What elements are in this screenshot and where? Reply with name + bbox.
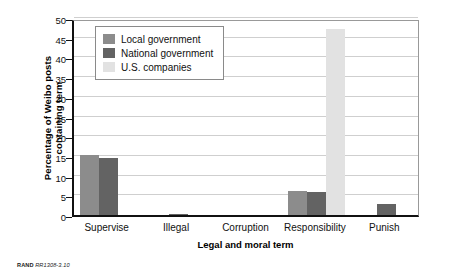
footer-document-id: RR1308-3.10 — [35, 262, 69, 268]
legend-item[interactable]: U.S. companies — [103, 60, 213, 74]
legend-swatch-icon — [103, 48, 115, 58]
y-axis-title: Percentage of Weibo posts containing ter… — [42, 18, 64, 218]
legend-item-label: U.S. companies — [121, 62, 192, 73]
x-axis-tick-label: Corruption — [222, 222, 269, 233]
bar-group — [352, 21, 421, 215]
x-axis-tick-label: Supervise — [84, 222, 128, 233]
y-axis-title-wrap: Percentage of Weibo posts containing ter… — [8, 18, 48, 218]
legend-item-label: Local government — [121, 34, 201, 45]
figure-container: Percentage of Weibo posts containing ter… — [0, 0, 461, 279]
x-axis-title: Legal and moral term — [72, 239, 419, 250]
y-axis-title-line2: containing term — [53, 18, 64, 218]
legend-swatch-icon — [103, 34, 115, 44]
x-axis-tick-label: Responsibility — [284, 222, 346, 233]
bar[interactable] — [326, 29, 345, 215]
legend: Local governmentNational governmentU.S. … — [95, 26, 224, 80]
y-axis-tick-mark — [66, 217, 72, 218]
y-axis-title-line1: Percentage of Weibo posts — [42, 56, 53, 180]
bar[interactable] — [80, 155, 99, 215]
bar[interactable] — [99, 158, 118, 215]
legend-item[interactable]: Local government — [103, 32, 213, 46]
bar[interactable] — [288, 191, 307, 215]
legend-item[interactable]: National government — [103, 46, 213, 60]
legend-swatch-icon — [103, 62, 115, 72]
bar-group — [282, 21, 351, 215]
bar[interactable] — [169, 214, 188, 215]
bar[interactable] — [377, 204, 396, 215]
x-axis-tick-label: Punish — [369, 222, 400, 233]
footer-source: RAND — [17, 262, 34, 268]
bar[interactable] — [307, 192, 326, 215]
legend-item-label: National government — [121, 48, 213, 59]
gridline — [74, 17, 418, 18]
figure-footer: RAND RR1308-3.10 — [17, 262, 70, 268]
x-axis-tick-label: Illegal — [163, 222, 189, 233]
